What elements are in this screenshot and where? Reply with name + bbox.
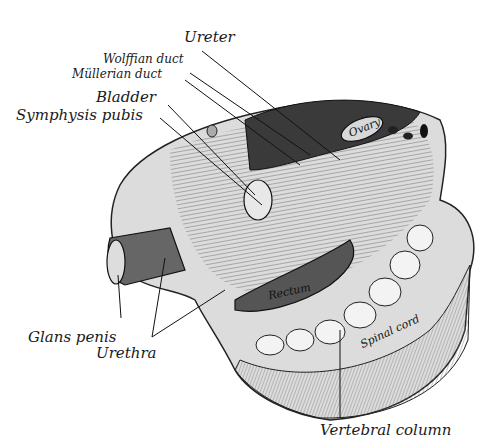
label-mullerian-duct: Müllerian duct bbox=[72, 68, 162, 80]
label-bladder: Bladder bbox=[96, 90, 156, 105]
label-urethra: Urethra bbox=[96, 346, 157, 361]
label-symphysis-pubis: Symphysis pubis bbox=[16, 108, 143, 123]
label-glans-penis: Glans penis bbox=[28, 330, 116, 345]
bladder-shape bbox=[244, 180, 272, 220]
label-ureter: Ureter bbox=[184, 30, 235, 45]
illustration-stage: Ureter Wolffian duct Müllerian duct Blad… bbox=[0, 0, 486, 442]
label-wolffian-duct: Wolffian duct bbox=[103, 53, 184, 65]
label-vertebral-column: Vertebral column bbox=[320, 423, 451, 438]
